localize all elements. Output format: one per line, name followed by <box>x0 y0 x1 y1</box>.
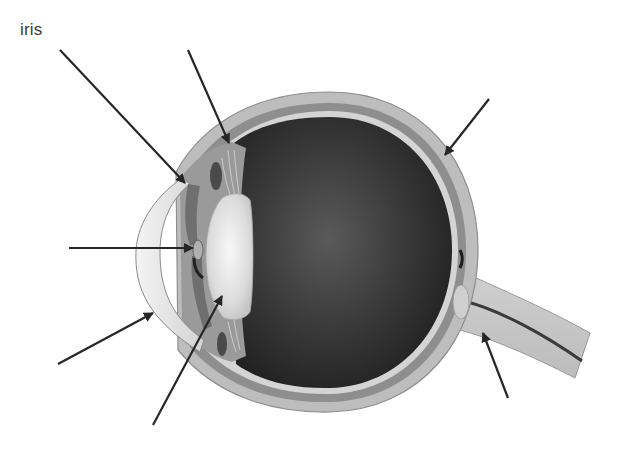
arrow-cornea <box>58 313 153 364</box>
arrow-retina <box>445 99 489 155</box>
label-iris: iris <box>20 20 43 40</box>
arrow-ciliary-body <box>188 50 229 143</box>
pupil <box>193 240 203 260</box>
eye-diagram <box>0 0 623 458</box>
ciliary-dark-top <box>210 162 222 190</box>
ciliary-dark-bottom <box>217 332 227 356</box>
arrow-iris <box>60 50 185 183</box>
optic-disc <box>453 285 469 319</box>
lens <box>206 194 253 320</box>
